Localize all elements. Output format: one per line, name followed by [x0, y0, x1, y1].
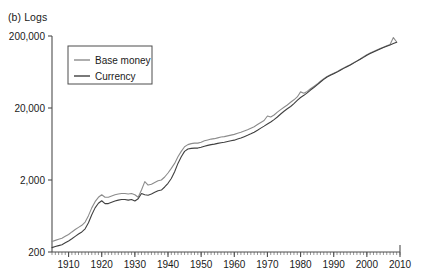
x-tick-label: 1980	[289, 259, 312, 270]
y-axis-tick-labels: 2002,00020,000200,000	[9, 31, 46, 258]
x-tick-label: 1950	[190, 259, 213, 270]
y-tick-label: 200,000	[9, 31, 46, 42]
legend-label: Currency	[95, 71, 136, 82]
x-tick-label: 1920	[91, 259, 114, 270]
x-tick-label: 2000	[356, 259, 379, 270]
chart-figure: (b) Logs 2002,00020,000200,000 191019201…	[0, 0, 421, 275]
x-tick-label: 1910	[57, 259, 80, 270]
x-tick-label: 1970	[256, 259, 279, 270]
y-axis-ticks	[48, 36, 52, 252]
y-tick-label: 200	[28, 247, 45, 258]
x-tick-label: 1940	[157, 259, 180, 270]
x-tick-label: 1960	[223, 259, 246, 270]
x-tick-label: 2010	[389, 259, 412, 270]
x-axis-tick-labels: 1910192019301940195019601970198019902000…	[57, 259, 411, 270]
log-line-chart: 2002,00020,000200,000 191019201930194019…	[0, 0, 421, 275]
y-tick-label: 2,000	[20, 175, 45, 186]
x-tick-label: 1990	[323, 259, 346, 270]
chart-legend: Base moneyCurrency	[68, 46, 152, 84]
x-tick-label: 1930	[124, 259, 147, 270]
legend-label: Base money	[95, 55, 151, 66]
y-tick-label: 20,000	[14, 103, 45, 114]
